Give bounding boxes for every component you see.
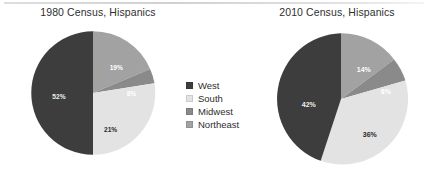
chart-title-2010: 2010 Census, Hispanics (248, 6, 426, 18)
legend-item-west[interactable]: West (186, 79, 244, 92)
pie-label-2010-south: 36% (363, 131, 378, 138)
legend-item-midwest[interactable]: Midwest (186, 105, 244, 118)
pie-chart-2010: 14% 8% 36% 42% (274, 32, 408, 166)
pie-slices-2010 (277, 33, 408, 164)
legend-swatch-icon-west (186, 82, 193, 89)
legend-item-northeast[interactable]: Northeast (186, 118, 244, 131)
legend-label-midwest: Midwest (198, 107, 233, 117)
chart-title-1980: 1980 Census, Hispanics (6, 6, 190, 18)
pie-label-1980-south: 21% (104, 126, 117, 133)
region-legend: West South Midwest Northeast (186, 79, 244, 131)
legend-swatch-icon-midwest (186, 108, 193, 115)
legend-label-west: West (198, 81, 219, 91)
pie-label-1980-midwest: 8% (127, 90, 137, 97)
legend-label-northeast: Northeast (198, 120, 239, 130)
dual-pie-chart-figure: 1980 Census, Hispanics 19% 8% 21% 52% (0, 0, 428, 192)
pie-slice-1980-south[interactable] (93, 83, 155, 154)
chart-panel-1980: 1980 Census, Hispanics 19% 8% 21% 52% (6, 6, 190, 186)
pie-label-1980-northeast: 19% (110, 64, 123, 71)
pie-label-1980-west: 52% (52, 93, 65, 100)
legend-swatch-icon-south (186, 95, 193, 102)
pie-chart-1980: 19% 8% 21% 52% (30, 30, 156, 156)
legend-item-south[interactable]: South (186, 92, 244, 105)
pie-label-2010-northeast: 14% (357, 66, 372, 73)
pie-svg-1980: 19% 8% 21% 52% (30, 30, 156, 156)
chart-panel-2010: 2010 Census, Hispanics 14% 8% 36% 42% (248, 6, 426, 192)
pie-svg-2010: 14% 8% 36% 42% (274, 32, 408, 166)
pie-slices-1980 (31, 31, 155, 154)
legend-swatch-icon-northeast (186, 121, 193, 128)
legend-label-south: South (198, 94, 223, 104)
pie-label-2010-west: 42% (302, 101, 317, 108)
pie-label-2010-midwest: 8% (381, 88, 392, 95)
